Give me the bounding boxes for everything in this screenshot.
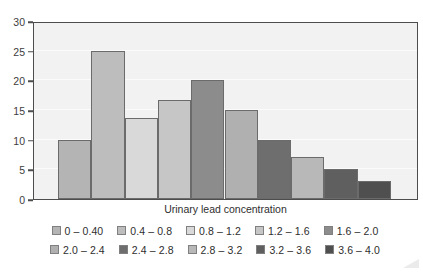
legend-entry[interactable]: 0.8 – 1.2: [186, 225, 241, 237]
legend-label: 0.4 – 0.8: [130, 225, 172, 237]
x-axis-title: Urinary lead concentration: [33, 203, 418, 215]
bar: [358, 181, 391, 199]
bar: [91, 51, 124, 199]
legend-label: 3.2 – 3.6: [269, 244, 311, 256]
legend-label: 2.0 – 2.4: [63, 244, 105, 256]
legend-label: 1.2 – 1.6: [268, 225, 310, 237]
y-axis-tick-label: 10: [13, 135, 25, 146]
histogram-figure: 051015202530 Urinary lead concentration …: [0, 0, 423, 272]
legend-swatch-icon: [324, 226, 333, 235]
bar: [58, 140, 91, 199]
legend-label: 1.6 – 2.0: [337, 225, 379, 237]
y-axis-tick-label: 15: [13, 106, 25, 117]
plot-area: [33, 22, 418, 200]
bar: [191, 80, 224, 199]
legend-label: 2.8 – 3.2: [201, 244, 243, 256]
bar: [258, 140, 291, 199]
legend-swatch-icon: [256, 245, 265, 254]
legend-swatch-icon: [188, 245, 197, 254]
bar: [324, 169, 357, 199]
legend-swatch-icon: [255, 226, 264, 235]
y-axis-tick-label: 0: [19, 195, 25, 206]
y-axis-tick-label: 20: [13, 76, 25, 87]
y-axis-tick-label: 25: [13, 46, 25, 57]
legend-entry[interactable]: 1.2 – 1.6: [255, 225, 310, 237]
y-axis-tick-label: 30: [13, 17, 25, 28]
legend-label: 3.6 – 4.0: [338, 244, 380, 256]
legend-label: 0 – 0.40: [65, 225, 104, 237]
legend-swatch-icon: [325, 245, 334, 254]
legend-swatch-icon: [50, 245, 59, 254]
y-axis-tick-label: 5: [19, 165, 25, 176]
legend-entry[interactable]: 2.4 – 2.8: [119, 244, 174, 256]
chart-legend: 0 – 0.400.4 – 0.80.8 – 1.21.2 – 1.61.6 –…: [25, 221, 405, 259]
legend-entry[interactable]: 3.6 – 4.0: [325, 244, 380, 256]
bar: [125, 118, 158, 199]
legend-swatch-icon: [186, 226, 195, 235]
legend-entry[interactable]: 2.0 – 2.4: [50, 244, 105, 256]
bar: [225, 110, 258, 199]
bar-series: [34, 23, 417, 199]
legend-entry[interactable]: 0 – 0.40: [52, 225, 104, 237]
legend-row-2: 2.0 – 2.42.4 – 2.82.8 – 3.23.2 – 3.63.6 …: [25, 240, 405, 259]
legend-row-1: 0 – 0.400.4 – 0.80.8 – 1.21.2 – 1.61.6 –…: [25, 221, 405, 240]
legend-swatch-icon: [52, 226, 61, 235]
legend-entry[interactable]: 0.4 – 0.8: [117, 225, 172, 237]
bar: [291, 157, 324, 199]
legend-entry[interactable]: 1.6 – 2.0: [324, 225, 379, 237]
legend-label: 2.4 – 2.8: [132, 244, 174, 256]
legend-swatch-icon: [117, 226, 126, 235]
legend-swatch-icon: [119, 245, 128, 254]
bar: [158, 100, 191, 199]
legend-entry[interactable]: 3.2 – 3.6: [256, 244, 311, 256]
legend-entry[interactable]: 2.8 – 3.2: [188, 244, 243, 256]
y-axis: 051015202530: [0, 0, 33, 222]
legend-label: 0.8 – 1.2: [199, 225, 241, 237]
corner-decoration-icon: [401, 256, 421, 270]
